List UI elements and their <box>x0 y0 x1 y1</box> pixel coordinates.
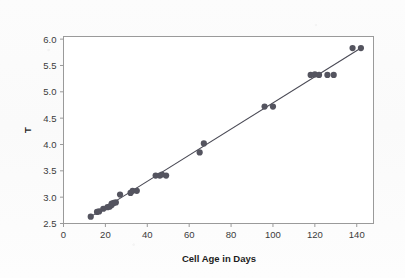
x-tick-label: 20 <box>100 229 111 240</box>
data-point <box>261 103 267 109</box>
x-tick-label: 60 <box>184 229 195 240</box>
data-point <box>331 72 337 78</box>
y-axis: 2.53.03.54.04.55.05.56.0 <box>43 34 63 229</box>
y-tick-label: 5.0 <box>43 86 56 97</box>
data-point <box>88 214 94 220</box>
scatter-plot: 2.53.03.54.04.55.05.56.0 020406080100120… <box>0 0 405 278</box>
data-point <box>316 72 322 78</box>
chart-figure: 2.53.03.54.04.55.05.56.0 020406080100120… <box>0 0 405 278</box>
data-point <box>349 45 355 51</box>
y-axis-title: T <box>22 127 33 133</box>
x-axis-title: Cell Age in Days <box>182 253 256 264</box>
y-tick-label: 5.5 <box>43 60 56 71</box>
data-point <box>113 199 119 205</box>
data-point <box>117 191 123 197</box>
y-tick-label: 4.5 <box>43 113 56 124</box>
data-point <box>134 188 140 194</box>
x-tick-label: 0 <box>61 229 66 240</box>
plot-frame <box>64 37 374 224</box>
x-tick-label: 100 <box>265 229 281 240</box>
x-tick-label: 140 <box>349 229 365 240</box>
x-tick-label: 120 <box>307 229 323 240</box>
x-tick-label: 80 <box>226 229 237 240</box>
data-point <box>201 140 207 146</box>
data-point <box>270 103 276 109</box>
y-tick-label: 3.0 <box>43 192 56 203</box>
y-tick-label: 4.0 <box>43 139 56 150</box>
x-axis: 020406080100120140 <box>61 224 365 240</box>
data-point <box>358 45 364 51</box>
data-point <box>197 149 203 155</box>
y-tick-label: 2.5 <box>43 218 56 229</box>
data-point <box>163 172 169 178</box>
y-tick-label: 6.0 <box>43 34 56 45</box>
x-tick-label: 40 <box>142 229 153 240</box>
y-tick-label: 3.5 <box>43 165 56 176</box>
data-point <box>324 72 330 78</box>
